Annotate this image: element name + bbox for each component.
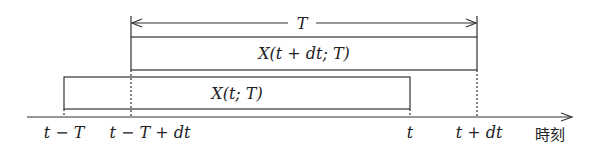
tick-label: t − T [44, 123, 86, 142]
window-current: X(t; T) [64, 77, 410, 109]
tick-label: t + dt [456, 123, 503, 142]
span-label: T [297, 14, 309, 33]
window-shifted-label: X(t + dt; T) [256, 44, 350, 63]
span-arrow-T: T [131, 14, 477, 37]
time-axis: t − T t − T + dt t t + dt 時刻 [27, 113, 572, 144]
timeline-diagram: T X(t + dt; T) X(t; T) t − T t − T + dt … [0, 0, 603, 159]
axis-label: 時刻 [535, 126, 565, 144]
tick-label: t [407, 123, 414, 142]
window-current-label: X(t; T) [209, 84, 262, 103]
tick-label: t − T + dt [110, 123, 192, 142]
window-shifted: X(t + dt; T) [131, 37, 477, 70]
